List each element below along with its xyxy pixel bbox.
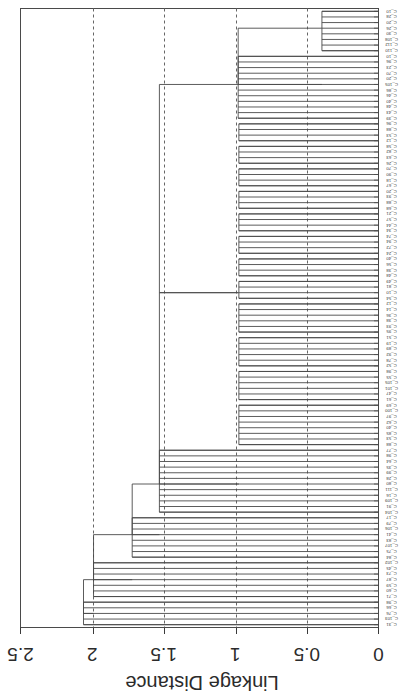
leaf-label: C_66 bbox=[386, 605, 397, 610]
leaf-label: C_14 bbox=[386, 307, 397, 312]
leaf-label: C_73 bbox=[386, 571, 397, 576]
leaf-label: C_96 bbox=[386, 59, 397, 64]
leaf-label: C_105 bbox=[384, 82, 397, 87]
leaf-label: C_93 bbox=[386, 324, 397, 329]
leaf-label: C_36 bbox=[386, 313, 397, 318]
leaf-label: C_69 bbox=[386, 403, 397, 408]
value-axis-title: Linkage Distance bbox=[125, 672, 278, 694]
leaf-label: C_92 bbox=[386, 352, 397, 357]
leaf-label: C_70 bbox=[386, 71, 397, 76]
leaf-label: C_40 bbox=[386, 99, 397, 104]
leaf-label: C_30 bbox=[386, 31, 397, 36]
value-tick-label: 2 bbox=[87, 644, 98, 665]
leaf-label: C_24 bbox=[386, 251, 397, 256]
leaf-label: C_89 bbox=[386, 346, 397, 351]
leaf-label: C_108 bbox=[384, 37, 397, 42]
leaf-label: C_57 bbox=[386, 217, 397, 222]
leaf-label: C_67 bbox=[386, 183, 397, 188]
leaf-label: C_71 bbox=[386, 594, 397, 599]
leaf-label: C_28 bbox=[386, 14, 397, 19]
leaf-label: C_81 bbox=[386, 284, 397, 289]
leaf-label: C_63 bbox=[386, 155, 397, 160]
leaf-label: C_88 bbox=[386, 200, 397, 205]
leaf-label: C_105 bbox=[384, 380, 397, 385]
leaf-label: C_58 bbox=[386, 144, 397, 149]
leaf-label: C_12 bbox=[386, 138, 397, 143]
value-tick-label: 1 bbox=[230, 644, 241, 665]
leaf-label: C_93 bbox=[386, 194, 397, 199]
leaf-label: C_10 bbox=[386, 9, 397, 14]
leaf-label: C_56 bbox=[386, 262, 397, 267]
leaf-label: C_70 bbox=[386, 166, 397, 171]
leaf-label: C_10 bbox=[386, 54, 397, 59]
leaf-label: C_101 bbox=[384, 386, 397, 391]
leaf-label: C_109 bbox=[384, 498, 397, 503]
leaf-label: C_80 bbox=[386, 481, 397, 486]
leaf-label: C_18 bbox=[386, 178, 397, 183]
leaf-label: C_39 bbox=[386, 116, 397, 121]
leaf-label: C_110 bbox=[385, 48, 398, 53]
leaf-label: C_53 bbox=[386, 436, 397, 441]
leaf-label: C_59 bbox=[386, 583, 397, 588]
leaf-label-group: C_10C_28C_20C_26C_30C_108C_112C_110C_10C… bbox=[384, 9, 397, 627]
leaf-label: C_72 bbox=[386, 245, 397, 250]
leaf-label: C_38 bbox=[386, 268, 397, 273]
leaf-label: C_20 bbox=[386, 76, 397, 81]
leaf-label: C_10 bbox=[386, 290, 397, 295]
leaf-label: C_20 bbox=[386, 189, 397, 194]
leaf-label: C_97 bbox=[386, 414, 397, 419]
leaf-label: C_98 bbox=[386, 369, 397, 374]
leaf-label: C_112 bbox=[385, 42, 398, 47]
leaf-label: C_44 bbox=[386, 223, 397, 228]
leaf-label: C_21 bbox=[386, 211, 397, 216]
leaf-label: C_98 bbox=[386, 600, 397, 605]
leaf-label: C_107 bbox=[384, 543, 397, 548]
value-tick-label: 1.5 bbox=[150, 644, 176, 665]
leaf-label: C_48 bbox=[386, 273, 397, 278]
leaf-label: C_46 bbox=[386, 93, 397, 98]
leaf-label: C_51 bbox=[386, 335, 397, 340]
leaf-label: C_28 bbox=[386, 476, 397, 481]
leaf-label: C_95 bbox=[386, 329, 397, 334]
leaf-label: C_88 bbox=[386, 127, 397, 132]
leaf-label: C_19 bbox=[386, 341, 397, 346]
leaf-label: C_86 bbox=[386, 87, 397, 92]
leaf-label: C_91 bbox=[386, 504, 397, 509]
leaf-label: C_38 bbox=[386, 318, 397, 323]
leaf-label: C_53 bbox=[386, 133, 397, 138]
leaf-label: C_104 bbox=[384, 510, 397, 515]
leaf-label: C_49 bbox=[386, 279, 397, 284]
leaf-label: C_102 bbox=[384, 560, 397, 565]
leaf-label: C_99 bbox=[386, 470, 397, 475]
leaf-label: C_111 bbox=[385, 487, 398, 492]
leaf-label: C_55 bbox=[386, 374, 397, 379]
leaf-label: C_23 bbox=[386, 65, 397, 70]
value-tick-label: 2.5 bbox=[7, 644, 33, 665]
leaf-label: C_61 bbox=[386, 397, 397, 402]
leaf-label: C_84 bbox=[386, 555, 397, 560]
leaf-label: C_98 bbox=[386, 453, 397, 458]
leaf-label: C_40 bbox=[386, 256, 397, 261]
leaf-label: C_48 bbox=[386, 104, 397, 109]
leaf-label: C_41 bbox=[386, 532, 397, 537]
leaf-label: C_62 bbox=[386, 420, 397, 425]
leaf-label: C_103 bbox=[384, 616, 397, 621]
leaf-label: C_43 bbox=[386, 110, 397, 115]
leaf-label: C_87 bbox=[386, 577, 397, 582]
leaf-label: C_96 bbox=[386, 121, 397, 126]
leaf-label: C_45 bbox=[386, 566, 397, 571]
leaf-label: C_17 bbox=[386, 515, 397, 520]
value-tick-label: 0 bbox=[373, 644, 384, 665]
dendrogram-figure: C_10C_28C_20C_26C_30C_108C_112C_110C_10C… bbox=[0, 0, 405, 700]
leaf-label: C_85 bbox=[386, 431, 397, 436]
leaf-label: C_90 bbox=[386, 172, 397, 177]
leaf-label: C_20 bbox=[386, 20, 397, 25]
leaf-label: C_83 bbox=[386, 538, 397, 543]
dendrogram-plot: C_10C_28C_20C_26C_30C_108C_112C_110C_10C… bbox=[0, 0, 405, 700]
leaf-label: C_75 bbox=[386, 549, 397, 554]
leaf-label: C_31 bbox=[386, 622, 397, 627]
leaf-label: C_26 bbox=[386, 26, 397, 31]
leaf-label: C_68 bbox=[386, 206, 397, 211]
leaf-label: C_106 bbox=[384, 526, 397, 531]
leaf-label: C_52 bbox=[386, 363, 397, 368]
